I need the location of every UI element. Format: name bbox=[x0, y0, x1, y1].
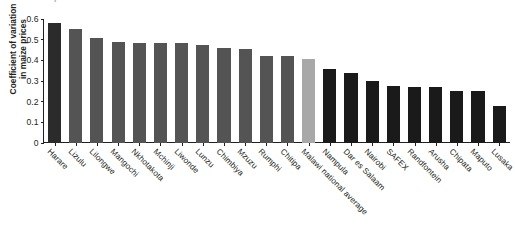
bar[interactable] bbox=[344, 73, 357, 143]
bar-slot bbox=[213, 19, 234, 143]
y-axis-tick-label: 0.4 bbox=[27, 55, 39, 65]
bar-slot bbox=[192, 19, 213, 143]
bar-slot bbox=[256, 19, 277, 143]
bar[interactable] bbox=[196, 45, 209, 143]
bar-slot bbox=[277, 19, 298, 143]
bar-slot bbox=[65, 19, 86, 143]
bar[interactable] bbox=[69, 29, 82, 143]
y-axis-tick-label: 0.2 bbox=[27, 97, 39, 107]
bar-slot bbox=[467, 19, 488, 143]
x-axis-tick-label: Harare bbox=[45, 147, 69, 171]
bar[interactable] bbox=[471, 91, 484, 143]
bar[interactable] bbox=[154, 43, 167, 143]
bar[interactable] bbox=[175, 43, 188, 143]
bar-slot bbox=[425, 19, 446, 143]
x-axis-tick-mark bbox=[436, 143, 437, 146]
bar-slot bbox=[489, 19, 510, 143]
x-axis-tick-mark bbox=[457, 143, 458, 146]
bar[interactable] bbox=[112, 42, 125, 143]
cropped-title-strip: maize prices in selected markets bbox=[0, 0, 515, 7]
x-axis-tick-mark bbox=[266, 143, 267, 146]
plot-area: 00.10.20.30.40.50.6 bbox=[44, 19, 510, 143]
bar-slot bbox=[298, 19, 319, 143]
bar[interactable] bbox=[90, 38, 103, 143]
x-axis-tick-mark bbox=[203, 143, 204, 146]
x-axis-tick-mark bbox=[97, 143, 98, 146]
x-axis-tick-mark bbox=[415, 143, 416, 146]
figure-title-ghost: maize prices in selected markets bbox=[22, 0, 184, 2]
bar[interactable] bbox=[260, 56, 273, 143]
x-axis-tick-mark bbox=[245, 143, 246, 146]
bar[interactable] bbox=[387, 86, 400, 143]
bar-slot bbox=[129, 19, 150, 143]
y-axis-tick-label: 0.6 bbox=[27, 14, 39, 24]
bar-slot bbox=[171, 19, 192, 143]
bar[interactable] bbox=[281, 56, 294, 143]
x-axis-tick-mark bbox=[330, 143, 331, 146]
x-axis-tick-mark bbox=[224, 143, 225, 146]
x-axis-tick-mark bbox=[309, 143, 310, 146]
x-axis-tick-mark bbox=[372, 143, 373, 146]
bar[interactable] bbox=[323, 69, 336, 143]
y-axis-tick-label: 0.1 bbox=[27, 117, 39, 127]
y-axis-tick: 0.5 bbox=[27, 35, 44, 45]
bar-slot bbox=[362, 19, 383, 143]
bar-slot bbox=[383, 19, 404, 143]
bar-series bbox=[44, 19, 510, 143]
y-axis-title-line-2: in maize prices bbox=[19, 19, 29, 79]
bar-slot bbox=[340, 19, 361, 143]
x-axis-tick-mark bbox=[55, 143, 56, 146]
y-axis-tick: 0 bbox=[34, 138, 44, 148]
y-axis-tick: 0.2 bbox=[27, 97, 44, 107]
bar-slot bbox=[86, 19, 107, 143]
chart-figure: maize prices in selected markets Coeffic… bbox=[0, 0, 515, 230]
bar[interactable] bbox=[493, 106, 506, 143]
x-axis-labels: HarareLizuluLilongweMangochiNkhotakotaMc… bbox=[44, 147, 510, 230]
x-axis-tick-label: SAFEX bbox=[384, 147, 409, 172]
y-axis-tick-label: 0 bbox=[34, 138, 39, 148]
x-axis-tick-mark bbox=[499, 143, 500, 146]
x-axis-tick-mark bbox=[287, 143, 288, 146]
x-axis-tick-mark bbox=[160, 143, 161, 146]
bar-slot bbox=[235, 19, 256, 143]
bar-slot bbox=[404, 19, 425, 143]
bar[interactable] bbox=[133, 43, 146, 143]
y-axis-tick: 0.1 bbox=[27, 117, 44, 127]
bar-slot bbox=[44, 19, 65, 143]
y-axis-tick-label: 0.5 bbox=[27, 35, 39, 45]
bar[interactable] bbox=[239, 49, 252, 143]
x-axis-tick-mark bbox=[76, 143, 77, 146]
x-axis-tick-mark bbox=[393, 143, 394, 146]
x-axis-tick-mark bbox=[478, 143, 479, 146]
y-axis-tick: 0.6 bbox=[27, 14, 44, 24]
bar[interactable] bbox=[366, 81, 379, 143]
x-axis-tick-mark bbox=[118, 143, 119, 146]
bar[interactable] bbox=[48, 23, 61, 143]
y-axis-tick-label: 0.3 bbox=[27, 76, 39, 86]
x-axis-tick-mark bbox=[139, 143, 140, 146]
y-axis-tick: 0.4 bbox=[27, 55, 44, 65]
x-axis-tick-mark bbox=[351, 143, 352, 146]
bar[interactable] bbox=[302, 59, 315, 143]
y-axis-tick: 0.3 bbox=[27, 76, 44, 86]
x-axis-tick-label: Lizulu bbox=[66, 147, 88, 169]
bar-slot bbox=[446, 19, 467, 143]
bar[interactable] bbox=[429, 87, 442, 143]
bar[interactable] bbox=[450, 91, 463, 143]
bar-slot bbox=[319, 19, 340, 143]
bar[interactable] bbox=[408, 87, 421, 143]
bar[interactable] bbox=[217, 48, 230, 143]
x-axis-tick-mark bbox=[182, 143, 183, 146]
x-axis-tick-label: Lusaka bbox=[490, 147, 515, 172]
bar-slot bbox=[108, 19, 129, 143]
bar-slot bbox=[150, 19, 171, 143]
y-axis-title-line-1: Coefficient of variation bbox=[9, 4, 19, 95]
